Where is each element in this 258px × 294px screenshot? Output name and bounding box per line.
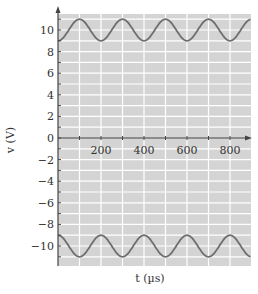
y-tick-label: 10 bbox=[40, 24, 54, 37]
y-tick-label: −2 bbox=[38, 154, 54, 167]
chart: 1086420−2−4−6−8−10 200400600800 v (V) t … bbox=[0, 0, 258, 294]
x-tick-label: 600 bbox=[177, 144, 198, 157]
y-axis-label: v (V) bbox=[4, 127, 17, 154]
x-axis-label: t (µs) bbox=[135, 272, 164, 285]
y-tick-label: 4 bbox=[47, 89, 54, 102]
y-tick-label: −4 bbox=[38, 175, 54, 188]
y-tick-label: −10 bbox=[31, 240, 54, 253]
y-tick-labels: 1086420−2−4−6−8−10 bbox=[31, 24, 54, 253]
x-tick-label: 200 bbox=[91, 144, 112, 157]
x-tick-label: 800 bbox=[220, 144, 241, 157]
y-tick-label: 6 bbox=[47, 67, 54, 80]
y-tick-label: 2 bbox=[47, 110, 54, 123]
y-axis-arrow-icon bbox=[56, 6, 61, 13]
y-tick-label: 8 bbox=[47, 46, 54, 59]
x-tick-label: 400 bbox=[134, 144, 155, 157]
y-tick-label: 0 bbox=[47, 132, 54, 145]
y-tick-label: −8 bbox=[38, 218, 54, 231]
y-tick-label: −6 bbox=[38, 197, 54, 210]
